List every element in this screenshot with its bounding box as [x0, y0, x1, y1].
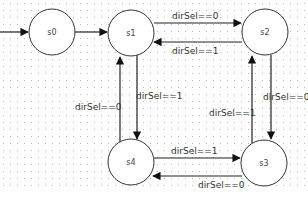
label-s4-s3: dirSel==1 — [171, 146, 217, 156]
label-s2-s3: dirSel==0 — [263, 92, 308, 102]
state-s2-label: s2 — [260, 28, 269, 37]
state-s3-label: s3 — [259, 159, 268, 168]
label-s4-s1: dirSel==0 — [75, 102, 122, 112]
state-s2[interactable]: s2 — [242, 9, 288, 55]
state-diagram-canvas: dirSel==0 dirSel==1 dirSel==0 dirSel==1 … — [0, 0, 308, 198]
state-s1-label: s1 — [126, 29, 135, 38]
state-s4-label: s4 — [126, 158, 135, 167]
state-s1[interactable]: s1 — [108, 10, 154, 56]
state-s0-label: s0 — [47, 28, 56, 37]
label-s1-s2: dirSel==0 — [172, 11, 219, 21]
state-s0[interactable]: s0 — [29, 9, 75, 55]
state-s3[interactable]: s3 — [241, 140, 287, 186]
label-s3-s2: dirSel==1 — [209, 108, 255, 118]
label-s1-s4: dirSel==1 — [136, 91, 182, 101]
label-s3-s4: dirSel==0 — [198, 180, 245, 190]
label-s2-s1: dirSel==1 — [172, 46, 218, 56]
state-s4[interactable]: s4 — [108, 139, 154, 185]
